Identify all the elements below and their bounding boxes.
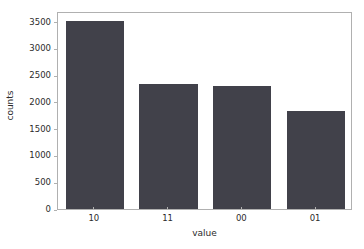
y-tick-mark [54, 49, 58, 50]
bar-10[interactable] [66, 21, 124, 209]
y-tick-label: 3000 [29, 43, 51, 54]
y-tick-label: 2500 [29, 70, 51, 81]
y-tick-mark [54, 76, 58, 77]
y-tick-mark [54, 183, 58, 184]
y-tick-mark [54, 102, 58, 103]
x-tick-label: 00 [221, 213, 261, 224]
x-axis-label: value [57, 228, 352, 239]
y-tick-label: 2000 [29, 97, 51, 108]
y-tick-label: 0 [46, 204, 51, 215]
y-tick-mark [54, 156, 58, 157]
chart-axes [57, 12, 352, 210]
bar-00[interactable] [213, 86, 271, 209]
y-tick-label: 1500 [29, 124, 51, 135]
y-tick-mark [54, 210, 58, 211]
x-tick-mark [93, 207, 94, 211]
bar-01[interactable] [287, 111, 345, 209]
x-tick-mark [241, 207, 242, 211]
x-tick-label: 10 [74, 213, 114, 224]
bar-chart-figure: 0500100015002000250030003500 10110001 va… [0, 0, 364, 249]
plot-area [58, 13, 351, 209]
bar-11[interactable] [139, 84, 197, 209]
y-tick-label: 1000 [29, 150, 51, 161]
y-tick-mark [54, 129, 58, 130]
y-tick-label: 500 [35, 177, 51, 188]
x-tick-mark [167, 207, 168, 211]
x-tick-label: 11 [148, 213, 188, 224]
y-tick-mark [54, 22, 58, 23]
x-tick-mark [315, 207, 316, 211]
x-tick-label: 01 [295, 213, 335, 224]
y-axis-label: counts [5, 76, 16, 136]
y-tick-label: 3500 [29, 17, 51, 28]
